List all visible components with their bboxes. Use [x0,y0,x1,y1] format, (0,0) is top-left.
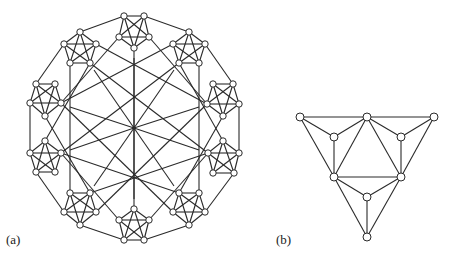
vertex-A [296,113,304,121]
spoke-edge [134,128,174,186]
cluster-vertex [52,81,58,87]
cluster-vertex [170,41,176,47]
chord-edge [179,63,223,141]
cluster-vertex [121,237,127,243]
cluster-vertex [77,29,83,35]
cluster-edge [189,193,199,225]
cluster-vertex [204,101,210,107]
vertex-H [363,193,371,201]
chord-edge [61,63,179,153]
chord-edge [179,116,223,193]
chord-edge [45,63,90,141]
chord-edge [96,44,207,104]
outer-cycle-edge [205,173,234,212]
cluster-edge [179,193,189,225]
cluster-vertex [202,209,208,215]
cluster-vertex [236,101,242,107]
cluster-edge [213,141,223,173]
vertex-F [330,173,338,181]
cluster-vertex [61,209,67,215]
panel-b-label: (b) [276,232,291,248]
cluster-vertex [220,138,226,144]
vertex-E [397,133,405,141]
cluster-edge [80,193,90,225]
cluster-edge [70,32,80,63]
edge-F-I [334,177,367,237]
cluster-edge [70,193,80,225]
cluster-vertex [230,81,236,87]
outer-cycle-edge [144,225,189,240]
vertex-I [363,233,371,241]
cluster-vertex [196,60,202,66]
cluster-edge [213,84,223,116]
outer-cycle-edge [205,44,233,84]
cluster-vertex [141,237,147,243]
cluster-vertex [141,13,147,19]
edge-G-I [367,177,401,237]
cluster-edge [189,32,199,63]
cluster-vertex [116,34,122,40]
cluster-vertex [33,169,39,175]
outer-cycle-edge [36,172,64,212]
cluster-vertex [27,100,33,106]
cluster-vertex [116,217,122,223]
cluster-vertex [176,60,182,66]
cluster-vertex [52,169,58,175]
outer-cycle-edge [36,44,64,84]
cluster-vertex [121,13,127,19]
cluster-vertex [67,190,73,196]
edge-A-F [300,117,334,177]
cluster-edge [45,84,55,116]
cluster-vertex [146,34,152,40]
cluster-edge [179,32,189,63]
outer-cycle-edge [144,16,189,32]
cluster-vertex [61,41,67,47]
cluster-vertex [93,209,99,215]
cluster-vertex [146,217,152,223]
cluster-vertex [170,209,176,215]
cluster-vertex [176,190,182,196]
cluster-edge [36,84,45,116]
outer-cycle-edge [80,16,124,32]
cluster-vertex [196,190,202,196]
spoke-edge [94,128,134,186]
cluster-vertex [58,150,64,156]
vertex-B [363,113,371,121]
edge-B-F [334,117,367,177]
cluster-vertex [186,29,192,35]
cluster-vertex [42,113,48,119]
panel-a-graph [27,13,242,243]
chord-edge [61,44,173,103]
chord-edge [45,116,90,193]
spoke-edge [134,70,174,128]
spoke-edge [134,107,199,128]
vertex-G [397,173,405,181]
cluster-vertex [210,81,216,87]
vertex-D [330,133,338,141]
cluster-vertex [42,138,48,144]
outer-cycle-edge [80,225,124,240]
cluster-edge [45,141,55,172]
cluster-vertex [210,170,216,176]
cluster-vertex [67,60,73,66]
chord-edge [61,103,173,212]
cluster-vertex [33,81,39,87]
cluster-vertex [87,60,93,66]
cluster-vertex [186,222,192,228]
cluster-vertex [202,41,208,47]
cluster-edge [36,141,45,172]
cluster-vertex [93,41,99,47]
edge-B-G [367,117,401,177]
cluster-vertex [58,100,64,106]
cluster-vertex [231,170,237,176]
cluster-edge [223,84,233,116]
center-vertex [132,126,136,130]
cluster-vertex [131,206,137,212]
cluster-edge [80,32,90,63]
panel-b-graph [296,113,438,241]
edge-C-G [401,117,434,177]
chord-edge [90,63,208,153]
cluster-vertex [220,113,226,119]
figure-canvas [0,0,454,264]
vertex-C [430,113,438,121]
